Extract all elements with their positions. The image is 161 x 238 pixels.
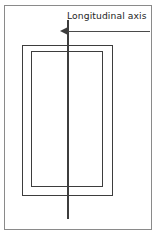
vertical-longitudinal-axis-line [67, 20, 69, 219]
annotation-leader-line [64, 31, 150, 32]
longitudinal-axis-figure: Longitudinal axis [0, 0, 161, 238]
longitudinal-axis-label: Longitudinal axis [67, 10, 155, 21]
arrow-left-icon [60, 27, 68, 35]
